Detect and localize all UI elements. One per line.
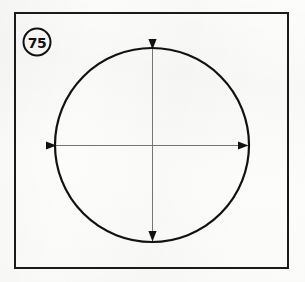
badge-number-label: 75: [28, 35, 46, 51]
figure-canvas: 75: [0, 0, 305, 282]
figure-number-badge: 75: [24, 29, 51, 56]
figure-page: 75: [0, 0, 305, 282]
